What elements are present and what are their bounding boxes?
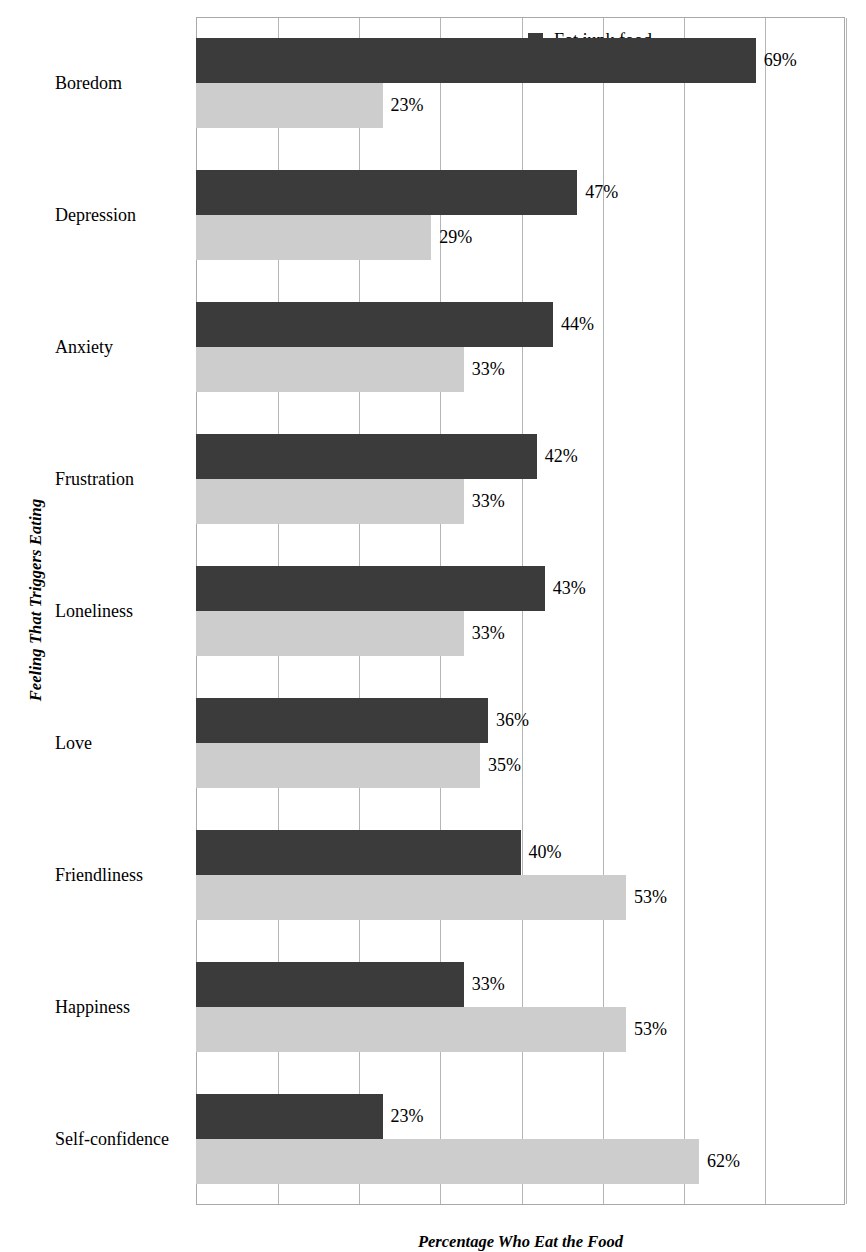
bar-value-label: 43% (545, 566, 586, 611)
bar (196, 434, 537, 479)
bar-value-label: 40% (521, 830, 562, 875)
bar (196, 1094, 383, 1139)
bar (196, 962, 464, 1007)
category-label: Anxiety (0, 337, 180, 358)
bar (196, 875, 626, 920)
bar (196, 830, 521, 875)
bar (196, 215, 431, 260)
bar (196, 566, 545, 611)
category-label: Frustration (0, 469, 180, 490)
bar (196, 83, 383, 128)
category-label: Happiness (0, 997, 180, 1018)
bar-value-label: 62% (699, 1139, 740, 1184)
bar-value-label: 33% (464, 347, 505, 392)
x-axis-title: Percentage Who Eat the Food (196, 1232, 845, 1252)
bar-value-label: 44% (553, 302, 594, 347)
bar (196, 38, 756, 83)
bar-value-label: 69% (756, 38, 797, 83)
bar-value-label: 42% (537, 434, 578, 479)
category-label: Self-confidence (0, 1129, 180, 1150)
category-label: Friendliness (0, 865, 180, 886)
bar (196, 611, 464, 656)
bar-value-label: 36% (488, 698, 529, 743)
bar-value-label: 35% (480, 743, 521, 788)
gridline (846, 18, 847, 1204)
bar-value-label: 33% (464, 962, 505, 1007)
category-label: Loneliness (0, 601, 180, 622)
bar-value-label: 23% (383, 83, 424, 128)
category-label: Depression (0, 205, 180, 226)
bar-value-label: 53% (626, 875, 667, 920)
bar (196, 743, 480, 788)
bar-value-label: 47% (577, 170, 618, 215)
gridline (765, 18, 766, 1204)
bar-value-label: 53% (626, 1007, 667, 1052)
bar (196, 1139, 699, 1184)
bar-value-label: 33% (464, 479, 505, 524)
bar-value-label: 29% (431, 215, 472, 260)
category-label: Boredom (0, 73, 180, 94)
bar (196, 347, 464, 392)
bar (196, 302, 553, 347)
gridline (684, 18, 685, 1204)
bar (196, 1007, 626, 1052)
bar (196, 698, 488, 743)
bar (196, 170, 577, 215)
category-label: Love (0, 733, 180, 754)
bar-value-label: 33% (464, 611, 505, 656)
bar-value-label: 23% (383, 1094, 424, 1139)
bar (196, 479, 464, 524)
